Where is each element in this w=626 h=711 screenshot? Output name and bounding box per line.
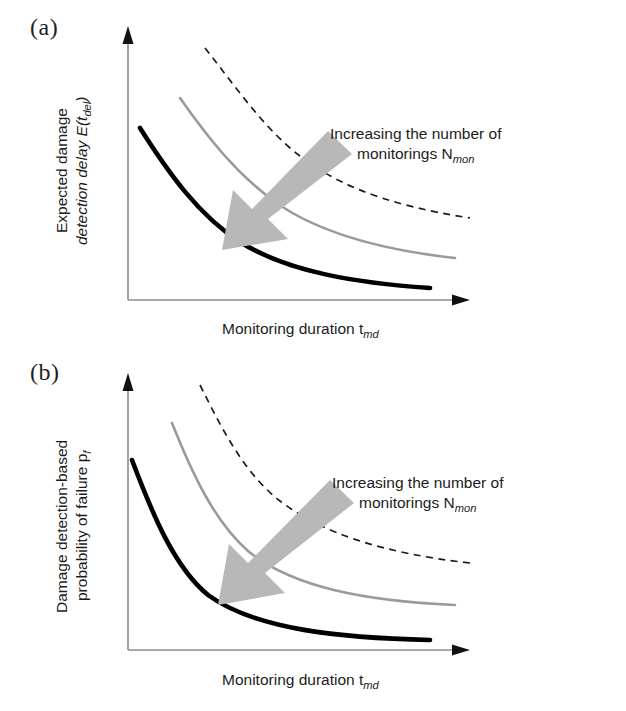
panel-b-x-axis-label: Monitoring duration tmd (222, 671, 379, 691)
panel-b-y-axis-arrowhead (123, 373, 134, 391)
panel-b-plot (0, 355, 626, 710)
panel-b-annotation: Increasing the number of monitorings Nmo… (332, 473, 503, 516)
panel-b-annotation-subscript: mon (455, 502, 477, 514)
panel-b-annotation-line2: monitorings Nmon (332, 493, 503, 516)
panel-b-annotation-line1: Increasing the number of (332, 474, 503, 491)
panel-a-annotation: Increasing the number of monitorings Nmo… (330, 124, 501, 167)
panel-a-x-axis-label: Monitoring duration tmd (222, 320, 379, 340)
panel-a-x-axis-arrowhead (452, 295, 470, 306)
panel-a-x-axis-label-text: Monitoring duration t (222, 320, 363, 337)
panel-b: (b) Damage detection-based probability o… (0, 355, 626, 710)
panel-a-annotation-line2-text: monitorings N (357, 145, 453, 162)
panel-a: (a) Expected damage detection delay E(td… (0, 0, 626, 355)
panel-b-x-axis-label-subscript: md (363, 679, 379, 691)
panel-b-annotation-line2-text: monitorings N (359, 494, 455, 511)
panel-b-x-axis-arrowhead (452, 645, 470, 656)
panel-a-annotation-line1: Increasing the number of (330, 125, 501, 142)
panel-a-annotation-line2: monitorings Nmon (330, 144, 501, 167)
panel-a-y-axis-arrowhead (123, 26, 134, 44)
panel-b-x-axis-label-text: Monitoring duration t (222, 671, 363, 688)
panel-a-plot (0, 0, 626, 355)
panel-a-x-axis-label-subscript: md (363, 328, 379, 340)
panel-a-annotation-subscript: mon (453, 153, 475, 165)
